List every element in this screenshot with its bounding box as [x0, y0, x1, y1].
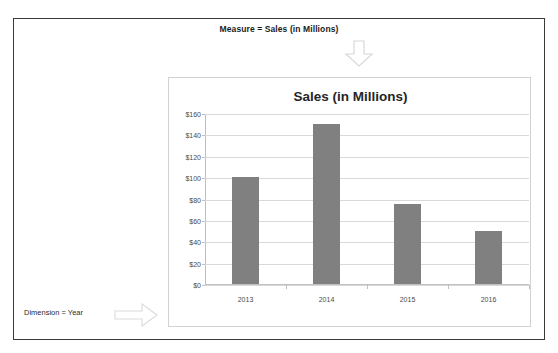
gridline — [205, 157, 529, 158]
y-tick-label: $60 — [161, 217, 201, 224]
x-tick-mark — [529, 285, 530, 289]
y-tick-mark — [202, 264, 205, 265]
plot-area: $0$20$40$60$80$100$120$140$160 201320142… — [205, 114, 529, 285]
x-tick-mark — [367, 285, 368, 289]
y-tick-mark — [202, 114, 205, 115]
bar[interactable] — [313, 124, 341, 284]
y-tick-mark — [202, 157, 205, 158]
x-tick-label: 2013 — [205, 296, 286, 303]
y-tick-mark — [202, 135, 205, 136]
chart-title: Sales (in Millions) — [169, 89, 532, 104]
y-tick-mark — [202, 200, 205, 201]
y-tick-label: $80 — [161, 196, 201, 203]
y-tick-mark — [202, 178, 205, 179]
y-tick-mark — [202, 285, 205, 286]
gridline — [205, 135, 529, 136]
arrow-right-icon — [114, 303, 158, 327]
gridline — [205, 114, 529, 115]
y-tick-mark — [202, 242, 205, 243]
dimension-caption: Dimension = Year — [24, 308, 83, 317]
x-tick-mark — [448, 285, 449, 289]
chart-panel: Sales (in Millions) $0$20$40$60$80$100$1… — [168, 77, 531, 327]
arrow-down-icon — [344, 40, 374, 67]
x-tick-label: 2015 — [367, 296, 448, 303]
y-tick-label: $20 — [161, 260, 201, 267]
x-tick-label: 2016 — [448, 296, 529, 303]
bar[interactable] — [232, 177, 260, 284]
y-tick-label: $100 — [161, 175, 201, 182]
y-tick-label: $120 — [161, 153, 201, 160]
x-tick-label: 2014 — [286, 296, 367, 303]
y-tick-mark — [202, 221, 205, 222]
y-tick-label: $0 — [161, 282, 201, 289]
y-tick-label: $40 — [161, 239, 201, 246]
bar[interactable] — [475, 231, 503, 284]
y-tick-label: $140 — [161, 132, 201, 139]
screenshot-root: Measure = Sales (in Millions) Dimension … — [0, 0, 558, 353]
bar[interactable] — [394, 204, 422, 284]
x-tick-mark — [286, 285, 287, 289]
y-tick-label: $160 — [161, 111, 201, 118]
measure-caption: Measure = Sales (in Millions) — [0, 24, 558, 34]
